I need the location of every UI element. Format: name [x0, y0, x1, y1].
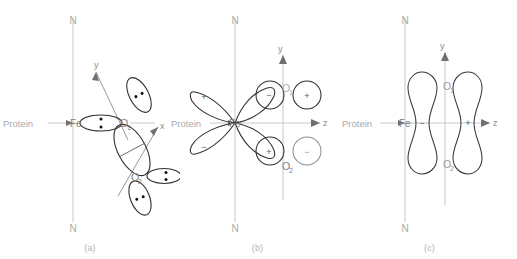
panel-a-caption: (a) — [0, 243, 180, 253]
svg-text:2: 2 — [138, 178, 142, 185]
axis-label-y: y — [278, 44, 283, 54]
label-n-bottom: N — [231, 223, 238, 234]
panel-b-canvas: + − − + + − N N Protein Fe y z O 1 O 2 — [170, 0, 345, 240]
label-n-top: N — [69, 15, 76, 26]
panel-b-caption: (b) — [170, 243, 345, 253]
sign-lobe-upper-left: + — [201, 92, 206, 102]
panel-c-canvas: − + N N Protein Fe y z O 1 O 2 — [342, 0, 517, 240]
sign-lobe-right: + — [465, 118, 470, 128]
label-n-bottom: N — [401, 223, 408, 234]
atom-label-o1: O 1 — [120, 117, 131, 131]
label-n-top: N — [231, 15, 238, 26]
panel-c: − + N N Protein Fe y z O 1 O 2 (c) — [342, 0, 517, 259]
axis-y-arrowhead — [441, 52, 449, 61]
axis-label-y: y — [94, 60, 99, 70]
axis-x-arrowhead — [150, 127, 158, 136]
lone-pair-ellipse-o1-upper — [122, 74, 157, 116]
axis-label-y: y — [440, 41, 445, 51]
atom-label-o2: O 2 — [131, 171, 142, 185]
atom-label-fe: Fe — [229, 118, 241, 129]
label-protein: Protein — [171, 118, 201, 129]
atom-label-o1: O 1 — [282, 82, 293, 96]
atom-label-o2: O 2 — [443, 158, 454, 172]
svg-text:2: 2 — [289, 167, 293, 174]
axis-label-z: z — [493, 118, 498, 128]
svg-text:1: 1 — [127, 124, 131, 131]
sign-o1-p-lobe: + — [304, 91, 309, 101]
axis-label-x: x — [160, 121, 165, 131]
axis-label-z: z — [323, 118, 328, 128]
orbital-figure: N N Protein Fe y x O 1 O 2 (a) — [0, 0, 517, 259]
axis-x-diagonal — [118, 127, 158, 196]
label-n-bottom: N — [69, 223, 76, 234]
axis-y-arrowhead — [279, 55, 287, 64]
svg-text:2: 2 — [450, 165, 454, 172]
panel-b: + − − + + − N N Protein Fe y z O 1 O 2 (… — [170, 0, 345, 259]
atom-label-fe: Fe — [399, 118, 411, 129]
sign-lobe-lower-left: − — [201, 142, 206, 152]
electron-dot — [100, 118, 103, 121]
sign-lobe-upper-right: − — [266, 90, 271, 100]
label-protein: Protein — [3, 118, 33, 129]
atom-label-fe: Fe — [70, 118, 82, 129]
axis-z-arrowhead — [311, 119, 320, 127]
sign-o2-p-lobe: − — [304, 147, 309, 157]
sign-lobe-left: − — [419, 118, 424, 128]
svg-text:1: 1 — [289, 89, 293, 96]
atom-label-o2: O 2 — [282, 160, 293, 174]
axis-z-arrowhead — [481, 119, 490, 127]
atom-label-o1: O 1 — [443, 80, 454, 94]
panel-c-caption: (c) — [342, 243, 517, 253]
sign-lobe-lower-right: + — [266, 147, 271, 157]
panel-a: N N Protein Fe y x O 1 O 2 (a) — [0, 0, 180, 259]
label-n-top: N — [401, 15, 408, 26]
electron-dot — [165, 178, 168, 181]
svg-text:1: 1 — [450, 87, 454, 94]
label-protein: Protein — [342, 118, 372, 129]
panel-a-canvas: N N Protein Fe y x O 1 O 2 — [0, 0, 180, 240]
electron-dot — [100, 126, 103, 129]
electron-dot — [165, 171, 168, 174]
